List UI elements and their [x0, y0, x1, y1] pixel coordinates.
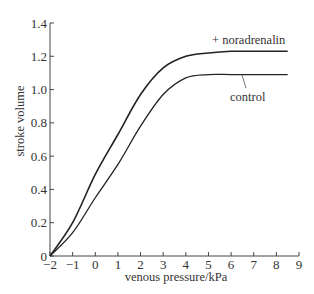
y-tick-label: 0.2: [31, 215, 47, 230]
y-tick-label: 1.2: [31, 49, 47, 64]
control-leader-line: [242, 75, 246, 88]
x-tick-label: 6: [228, 257, 235, 272]
x-tick-label: 1: [115, 257, 122, 272]
x-tick-label: −1: [66, 257, 80, 272]
y-tick-label: 1.4: [31, 16, 48, 31]
noradrenalin-label: + noradrenalin: [212, 33, 286, 47]
y-axis: 00.20.40.60.81.01.21.4: [31, 16, 54, 264]
stroke-volume-chart: 00.20.40.60.81.01.21.4 −2−10123456789 + …: [0, 0, 314, 294]
x-axis: −2−10123456789: [43, 252, 302, 272]
y-tick-label: 0.8: [31, 115, 47, 130]
x-tick-label: 9: [296, 257, 303, 272]
y-axis-label: stroke volume: [13, 85, 27, 157]
y-tick-label: 0.6: [31, 149, 48, 164]
annotations: + noradrenalin control: [212, 33, 286, 104]
x-tick-label: −2: [43, 257, 57, 272]
y-tick-label: 0.4: [31, 182, 48, 197]
noradrenalin-curve: [50, 51, 288, 256]
series-group: [50, 51, 288, 256]
y-tick-label: 1.0: [31, 82, 47, 97]
x-tick-label: 0: [92, 257, 99, 272]
x-tick-label: 8: [273, 257, 280, 272]
control-label: control: [230, 90, 266, 104]
x-tick-label: 7: [250, 257, 257, 272]
x-axis-label: venous pressure/kPa: [125, 270, 228, 284]
